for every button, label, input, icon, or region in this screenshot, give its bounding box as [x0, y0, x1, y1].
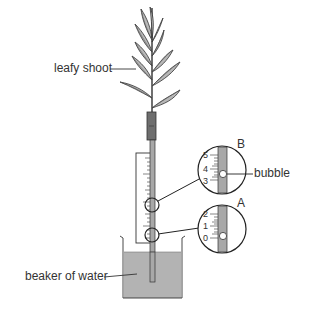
svg-text:1: 1	[203, 221, 208, 231]
svg-text:0: 0	[203, 233, 208, 243]
label-view-a: A	[237, 197, 245, 209]
svg-text:2: 2	[203, 209, 208, 219]
bubble	[219, 170, 226, 177]
label-leafy-shoot: leafy shoot	[54, 62, 112, 74]
svg-text:4: 4	[203, 164, 208, 174]
svg-text:5: 5	[203, 150, 208, 160]
leafy-shoot	[120, 7, 180, 112]
magnified-view-b: 5 4 3	[198, 146, 253, 194]
label-beaker: beaker of water	[25, 270, 108, 282]
label-view-b: B	[237, 138, 245, 150]
magnified-view-a: 2 1 0	[198, 205, 246, 253]
svg-text:3: 3	[203, 176, 208, 186]
label-bubble: bubble	[254, 167, 290, 179]
bubble-a	[219, 232, 226, 239]
